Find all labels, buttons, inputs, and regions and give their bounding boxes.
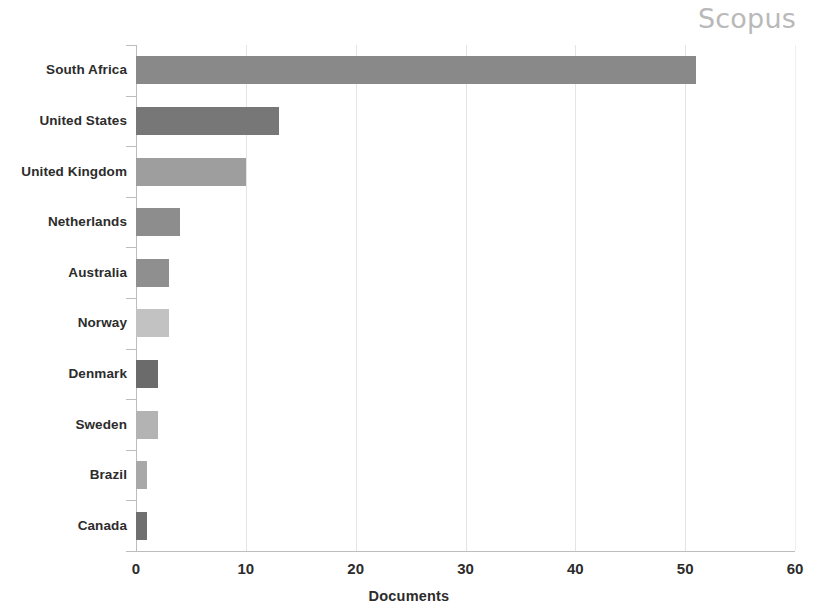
category-label-australia: Australia — [68, 265, 127, 281]
bar-sweden[interactable] — [136, 411, 158, 439]
x-tick-label-60: 60 — [787, 560, 804, 578]
bar-united-states[interactable] — [136, 107, 279, 135]
bar-denmark[interactable] — [136, 360, 158, 388]
bar-brazil[interactable] — [136, 461, 147, 489]
x-tick-label-30: 30 — [457, 560, 474, 578]
y-axis-tick-8 — [126, 450, 136, 451]
bar-chart: South AfricaUnited StatesUnited KingdomN… — [0, 0, 818, 613]
x-tick-label-10: 10 — [237, 560, 254, 578]
gridline-30 — [466, 45, 467, 551]
y-axis-tick-end — [126, 551, 136, 552]
category-label-brazil: Brazil — [90, 467, 127, 483]
y-axis-tick-0 — [126, 45, 136, 46]
y-axis-tick-7 — [126, 399, 136, 400]
x-tick-label-0: 0 — [132, 560, 140, 578]
category-label-united-kingdom: United Kingdom — [21, 164, 127, 180]
category-label-norway: Norway — [78, 315, 127, 331]
y-axis-tick-9 — [126, 500, 136, 501]
bar-south-africa[interactable] — [136, 56, 696, 84]
bar-canada[interactable] — [136, 512, 147, 540]
category-label-netherlands: Netherlands — [48, 214, 127, 230]
y-axis-tick-5 — [126, 298, 136, 299]
x-tick-label-20: 20 — [347, 560, 364, 578]
category-label-united-states: United States — [39, 113, 127, 129]
gridline-40 — [575, 45, 576, 551]
category-label-south-africa: South Africa — [46, 62, 127, 78]
category-label-canada: Canada — [78, 518, 127, 534]
y-axis-tick-6 — [126, 349, 136, 350]
gridline-50 — [685, 45, 686, 551]
gridline-20 — [356, 45, 357, 551]
y-axis-tick-1 — [126, 96, 136, 97]
gridline-60 — [795, 45, 796, 551]
x-axis-line — [136, 551, 795, 552]
bar-australia[interactable] — [136, 259, 169, 287]
y-axis-tick-3 — [126, 197, 136, 198]
x-tick-label-40: 40 — [567, 560, 584, 578]
bar-norway[interactable] — [136, 309, 169, 337]
y-axis-tick-4 — [126, 247, 136, 248]
category-label-sweden: Sweden — [75, 417, 127, 433]
bar-netherlands[interactable] — [136, 208, 180, 236]
x-axis-title: Documents — [0, 588, 818, 604]
category-label-denmark: Denmark — [69, 366, 127, 382]
bar-united-kingdom[interactable] — [136, 158, 246, 186]
x-tick-label-50: 50 — [677, 560, 694, 578]
y-axis-tick-2 — [126, 146, 136, 147]
